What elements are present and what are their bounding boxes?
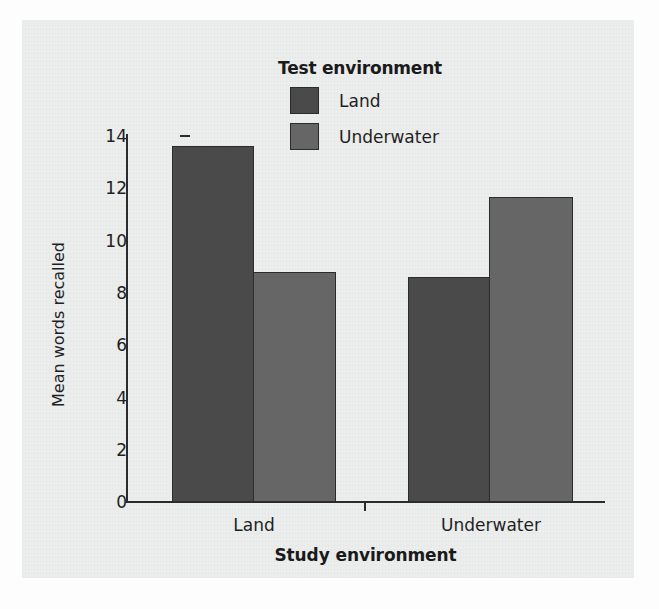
y-tick-label: 6: [85, 335, 127, 355]
y-tick-label: 14: [85, 126, 127, 146]
y-tick-label: 4: [85, 388, 127, 408]
x-axis-label: Study environment: [126, 545, 605, 565]
legend-label-land: Land: [339, 91, 380, 111]
legend-label-underwater: Underwater: [339, 127, 439, 147]
bar-underwater-study-underwater-test: [489, 197, 573, 502]
legend-swatch-underwater-icon: [290, 123, 319, 150]
bar-underwater-study-land-test: [408, 277, 490, 502]
chart-legend: Test environment Land Underwater: [278, 58, 508, 159]
y-tick-label: 12: [85, 178, 127, 198]
y-tick-label: 2: [85, 440, 127, 460]
x-tick-mark-center: [364, 501, 366, 511]
x-tick-label-underwater: Underwater: [441, 515, 541, 535]
legend-item-underwater: Underwater: [278, 123, 508, 150]
legend-title: Test environment: [278, 58, 508, 78]
bar-land-study-land-test: [172, 146, 254, 502]
y-tick-label: 8: [85, 283, 127, 303]
x-tick-label-land: Land: [233, 515, 274, 535]
bar-land-study-underwater-test: [253, 272, 336, 502]
y-tick-label: 0: [85, 492, 127, 512]
legend-swatch-land-icon: [290, 87, 319, 114]
bar-chart: Mean words recalled 14 12 10 8 6 4 2 0: [0, 0, 659, 609]
y-tick-label: 10: [85, 231, 127, 251]
y-axis-label: Mean words recalled: [49, 210, 68, 440]
legend-item-land: Land: [278, 87, 508, 114]
